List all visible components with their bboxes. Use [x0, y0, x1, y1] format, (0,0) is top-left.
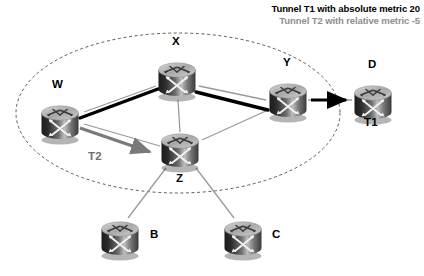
- router-icon: [35, 96, 85, 146]
- router-icon: [155, 124, 205, 174]
- router-label-c: C: [272, 228, 281, 240]
- network-diagram: Tunnel T1 with absolute metric 20 Tunnel…: [0, 0, 424, 276]
- legend-tunnel-t2: Tunnel T2 with relative metric -5: [271, 15, 420, 27]
- router-label-w: W: [52, 78, 63, 90]
- router-label-z: Z: [176, 172, 183, 184]
- router-x[interactable]: [152, 53, 202, 103]
- tunnel-label-t1: T1: [364, 116, 378, 128]
- router-y[interactable]: [263, 74, 313, 124]
- link-x-y: [199, 86, 266, 100]
- router-icon: [218, 212, 268, 262]
- router-b[interactable]: [95, 212, 145, 262]
- router-icon: [95, 212, 145, 262]
- router-label-x: X: [172, 35, 180, 47]
- link-z-c: [196, 168, 234, 218]
- router-icon: [152, 53, 202, 103]
- link-z-y: [202, 110, 268, 140]
- router-label-d: D: [368, 58, 377, 70]
- router-icon: [263, 74, 313, 124]
- router-w[interactable]: [35, 96, 85, 146]
- router-label-y: Y: [283, 56, 291, 68]
- router-z[interactable]: [155, 124, 205, 174]
- legend-tunnel-t1: Tunnel T1 with absolute metric 20: [271, 3, 420, 15]
- link-w-x: [84, 86, 156, 112]
- legend: Tunnel T1 with absolute metric 20 Tunnel…: [271, 3, 420, 26]
- tunnel-label-t2: T2: [88, 150, 102, 162]
- router-c[interactable]: [218, 212, 268, 262]
- router-label-b: B: [150, 228, 159, 240]
